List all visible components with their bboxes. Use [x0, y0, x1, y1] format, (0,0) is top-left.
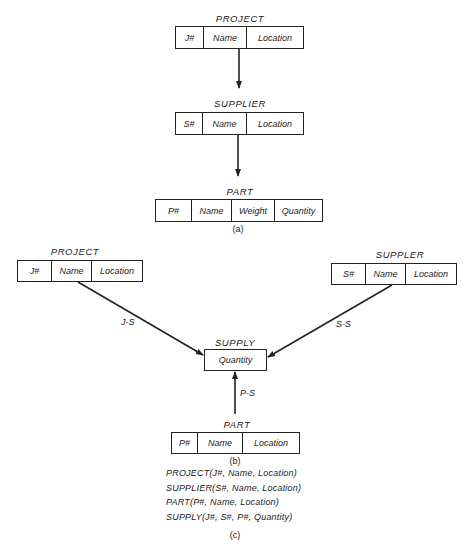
schema-supply: SUPPLY(J#, S#, P#, Quantity): [166, 510, 301, 525]
field: Name: [202, 113, 246, 134]
relational-schema-list: PROJECT(J#, Name, Location) SUPPLIER(S#,…: [166, 466, 301, 524]
b-project-entity: J# Name Location: [17, 260, 143, 282]
b-supply-entity: Quantity: [204, 349, 267, 371]
edge-label-ss: S-S: [336, 319, 351, 329]
schema-part: PART(P#, Name, Location): [166, 495, 301, 510]
field: Location: [91, 261, 142, 281]
caption-b: (b): [215, 456, 255, 466]
a-supplier-title: SUPPLIER: [200, 98, 280, 109]
arrow-supplier-to-supply: [268, 285, 392, 357]
b-supplier-entity: S# Name Location: [331, 263, 457, 285]
a-project-entity: J# Name Location: [175, 26, 304, 49]
field: Quantity: [205, 350, 266, 370]
caption-c: (c): [215, 530, 255, 540]
caption-a: (a): [218, 224, 258, 234]
a-part-title: PART: [210, 186, 270, 197]
b-supply-title: SUPPLY: [205, 337, 265, 348]
field: Location: [246, 27, 303, 48]
field: S#: [332, 264, 365, 284]
b-supplier-title: SUPPLER: [370, 249, 430, 260]
schema-project: PROJECT(J#, Name, Location): [166, 466, 301, 481]
field: Location: [246, 113, 303, 134]
field: Name: [51, 261, 91, 281]
field: J#: [176, 27, 203, 48]
field: S#: [176, 113, 202, 134]
field: Weight: [231, 200, 274, 221]
schema-supplier: SUPPLIER(S#, Name, Location): [166, 481, 301, 496]
edge-label-ps: P-S: [240, 388, 255, 398]
field: Name: [197, 433, 242, 453]
field: Location: [405, 264, 456, 284]
field: Location: [242, 433, 299, 453]
field: Name: [203, 27, 246, 48]
edge-label-js: J-S: [121, 317, 135, 327]
a-part-entity: P# Name Weight Quantity: [155, 199, 323, 222]
field: Quantity: [274, 200, 322, 221]
b-part-title: PART: [212, 419, 262, 430]
field: Name: [191, 200, 231, 221]
field: J#: [18, 261, 51, 281]
field: P#: [172, 433, 197, 453]
field: P#: [156, 200, 191, 221]
a-project-title: PROJECT: [205, 13, 275, 24]
b-part-entity: P# Name Location: [171, 432, 300, 454]
field: Name: [365, 264, 405, 284]
b-project-title: PROJECT: [40, 246, 110, 257]
a-supplier-entity: S# Name Location: [175, 112, 304, 135]
arrow-project-to-supply: [78, 282, 203, 355]
